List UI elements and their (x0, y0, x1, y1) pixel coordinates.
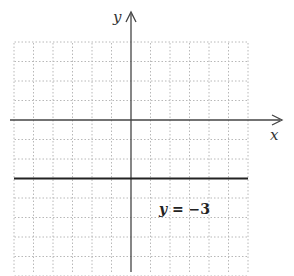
x-axis (10, 115, 282, 125)
y-axis-label: y (112, 8, 122, 26)
equation-label: y = −3 (158, 201, 210, 217)
coordinate-plane: x y y = −3 (0, 0, 294, 276)
y-axis (126, 12, 136, 272)
x-axis-label: x (270, 126, 279, 144)
